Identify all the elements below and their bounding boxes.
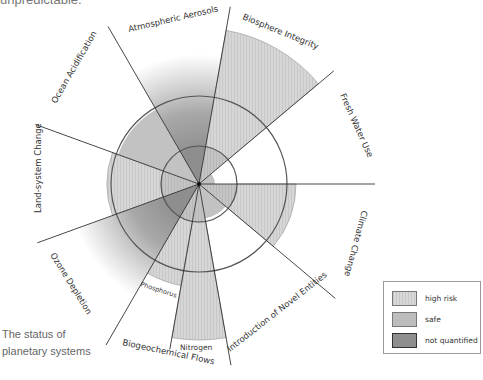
label-atmospheric-aerosols: Atmospheric Aerosols: [127, 3, 219, 34]
label-climate-change: Climate Change: [342, 209, 369, 277]
not-quantified-swatch-icon: [392, 333, 417, 348]
legend-item-safe: safe: [392, 311, 441, 327]
label-ozone-depletion: Ozone Depletion: [48, 251, 94, 316]
center-point: [197, 182, 201, 186]
legend: high risk safe not quantified: [383, 281, 481, 354]
safe-swatch-icon: [392, 312, 417, 327]
high-risk-swatch-icon: [392, 291, 417, 306]
label-land-system-change: Land-system Change: [33, 123, 43, 213]
figure-caption: The status of planetary systems: [2, 326, 91, 360]
legend-item-not-quantified: not quantified: [392, 332, 478, 348]
label-fresh-water-use: Fresh Water Use: [338, 92, 375, 159]
label-ocean-acidification: Ocean Acidification: [49, 29, 99, 105]
legend-item-high-risk: high risk: [392, 290, 457, 306]
label-novel-entities: Introduction of Novel Entities: [225, 269, 329, 353]
caption-line-2: planetary systems: [2, 343, 91, 360]
caption-line-1: The status of: [2, 326, 91, 343]
